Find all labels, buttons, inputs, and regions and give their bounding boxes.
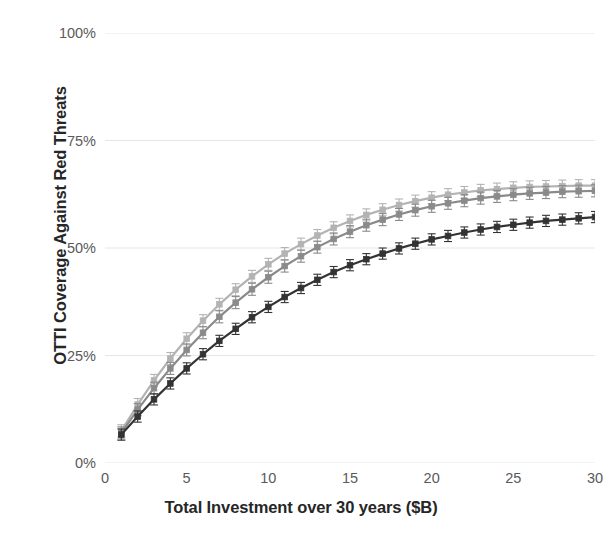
data-point-marker [445, 233, 451, 239]
data-point-marker [478, 227, 484, 233]
data-point-marker [364, 212, 370, 218]
data-point-marker [331, 269, 337, 275]
data-point-marker [200, 330, 206, 336]
data-point-marker [445, 192, 451, 198]
data-point-marker [298, 241, 304, 247]
series-line [121, 191, 595, 433]
data-point-marker [413, 198, 419, 204]
data-point-marker [184, 347, 190, 353]
data-point-marker [445, 200, 451, 206]
data-point-marker [282, 251, 288, 257]
data-point-marker [462, 198, 468, 204]
data-point-marker [560, 217, 566, 223]
data-point-marker [576, 188, 582, 194]
data-point-marker [380, 217, 386, 223]
data-point-marker [233, 326, 239, 332]
data-point-marker [217, 302, 223, 308]
data-point-marker [298, 253, 304, 259]
data-point-marker [135, 414, 141, 420]
data-point-marker [462, 230, 468, 236]
x-tick-label: 30 [565, 470, 608, 486]
data-point-marker [233, 300, 239, 306]
data-point-marker [347, 218, 353, 224]
data-point-marker [380, 207, 386, 213]
data-point-marker [249, 286, 255, 292]
data-point-marker [315, 277, 321, 283]
data-point-marker [527, 191, 533, 197]
data-point-marker [168, 381, 174, 387]
data-point-marker [315, 244, 321, 250]
x-tick-label: 25 [483, 470, 543, 486]
data-point-marker [184, 366, 190, 372]
plot-area [105, 33, 595, 463]
data-point-marker [560, 189, 566, 195]
series-1 [117, 180, 595, 437]
x-tick-label: 10 [238, 470, 298, 486]
y-tick-label: 75% [6, 133, 96, 149]
y-tick-label: 25% [6, 348, 96, 364]
data-point-marker [511, 222, 517, 228]
data-point-marker [347, 229, 353, 235]
data-point-marker [249, 314, 255, 320]
data-point-marker [331, 236, 337, 242]
data-point-marker [478, 195, 484, 201]
y-tick-label: 100% [6, 25, 96, 41]
data-point-marker [298, 285, 304, 291]
data-point-marker [429, 237, 435, 243]
data-point-marker [576, 216, 582, 222]
data-point-marker [396, 212, 402, 218]
gridlines [105, 33, 595, 463]
data-point-marker [380, 251, 386, 257]
data-point-marker [282, 294, 288, 300]
data-point-marker [266, 304, 272, 310]
data-point-marker [184, 336, 190, 342]
data-point-marker [396, 246, 402, 252]
data-point-marker [429, 203, 435, 209]
series-line [121, 217, 595, 435]
data-point-marker [315, 233, 321, 239]
data-point-marker [168, 366, 174, 372]
x-tick-label: 20 [402, 470, 462, 486]
data-point-marker [543, 218, 549, 224]
data-point-marker [413, 207, 419, 213]
data-point-marker [396, 202, 402, 208]
data-point-marker [168, 356, 174, 362]
data-point-marker [429, 195, 435, 201]
data-point-marker [331, 225, 337, 231]
series-3 [117, 211, 595, 440]
data-point-marker [151, 385, 157, 391]
data-point-marker [249, 274, 255, 280]
data-point-marker [266, 262, 272, 268]
x-tick-label: 15 [320, 470, 380, 486]
data-point-marker [217, 314, 223, 320]
data-point-marker [282, 263, 288, 269]
data-point-marker [119, 432, 125, 438]
data-point-marker [217, 338, 223, 344]
x-tick-label: 5 [157, 470, 217, 486]
data-point-marker [592, 214, 595, 220]
data-point-marker [347, 262, 353, 268]
data-point-marker [200, 351, 206, 357]
series-layer [117, 180, 595, 441]
plot-svg [105, 33, 595, 463]
data-point-marker [151, 397, 157, 403]
data-point-marker [413, 241, 419, 247]
data-point-marker [494, 224, 500, 230]
y-tick-label: 50% [6, 240, 96, 256]
data-point-marker [200, 318, 206, 324]
data-point-marker [233, 287, 239, 293]
data-point-marker [543, 190, 549, 196]
data-point-marker [364, 256, 370, 262]
data-point-marker [364, 222, 370, 228]
data-point-marker [592, 188, 595, 194]
x-axis-title: Total Investment over 30 years ($B) [0, 498, 602, 517]
data-point-marker [527, 220, 533, 226]
x-tick-label: 0 [75, 470, 135, 486]
data-point-marker [266, 274, 272, 280]
y-tick-label: 0% [6, 455, 96, 471]
data-point-marker [511, 192, 517, 198]
data-point-marker [494, 194, 500, 200]
